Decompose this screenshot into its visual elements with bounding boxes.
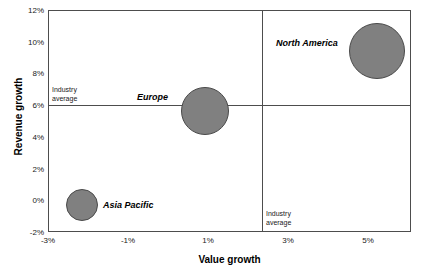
x-tick-label-1: 1% xyxy=(202,236,214,245)
x-tick-label-3: 3% xyxy=(282,236,294,245)
y-axis-title: Revenue growth xyxy=(13,47,24,187)
industry-average-vertical-line xyxy=(262,10,263,232)
industry-average-horizontal-label-line1: Industry xyxy=(52,86,77,95)
bubble-label-asia-pacific: Asia Pacific xyxy=(103,200,154,210)
bubble-label-europe: Europe xyxy=(137,92,168,102)
industry-average-horizontal-label-line2: average xyxy=(52,95,77,104)
industry-average-horizontal-line xyxy=(48,105,411,106)
bubble-europe xyxy=(181,87,229,135)
y-tick-label-10: 10% xyxy=(16,37,44,46)
x-tick-label-neg3: -3% xyxy=(41,236,55,245)
industry-average-vertical-label-line2: average xyxy=(266,219,291,228)
industry-average-vertical-label-line1: Industry xyxy=(266,210,291,219)
x-axis-title: Value growth xyxy=(48,254,411,265)
y-tick-label-0: 0% xyxy=(16,196,44,205)
bubble-label-north-america: North America xyxy=(276,38,338,48)
bubble-asia-pacific xyxy=(66,189,98,221)
x-tick-label-5: 5% xyxy=(362,236,374,245)
industry-average-vertical-label: Industry average xyxy=(266,210,291,227)
bubble-north-america xyxy=(349,23,405,79)
bubble-chart-figure: Industry average Industry average North … xyxy=(0,0,421,272)
y-tick-label-12: 12% xyxy=(16,6,44,15)
x-tick-label-neg1: -1% xyxy=(121,236,135,245)
y-tick-label-neg2: -2% xyxy=(16,228,44,237)
industry-average-horizontal-label: Industry average xyxy=(52,86,77,103)
